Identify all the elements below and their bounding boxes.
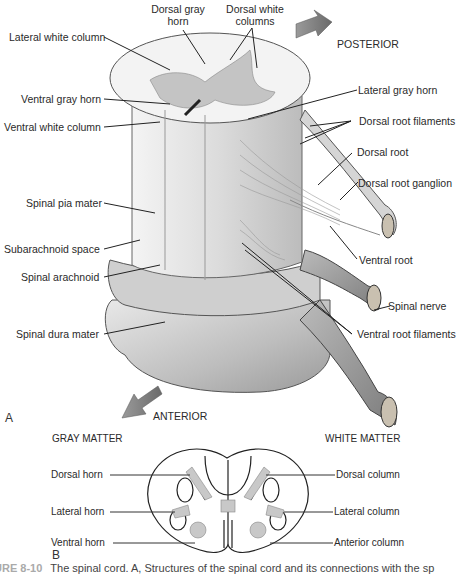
label-dorsal-horn: Dorsal horn xyxy=(51,469,103,481)
label-anterior-column: Anterior column xyxy=(334,537,404,549)
label-dorsal-gray-horn: Dorsal gray horn xyxy=(148,3,208,27)
figure-caption: URE 8-10The spinal cord. A, Structures o… xyxy=(0,562,434,574)
caption-text: The spinal cord. A, Structures of the sp… xyxy=(50,562,434,574)
label-lateral-white-column: Lateral white column xyxy=(9,31,105,43)
label-dorsal-root-ganglion: Dorsal root ganglion xyxy=(358,177,452,189)
label-posterior-direction: POSTERIOR xyxy=(337,38,399,50)
label-spinal-arachnoid: Spinal arachnoid xyxy=(21,271,99,283)
label-dorsal-column: Dorsal column xyxy=(336,469,400,481)
label-dorsal-gray-horn-line2: horn xyxy=(148,15,208,27)
label-dorsal-white-columns: Dorsal white columns xyxy=(222,3,288,27)
heading-gray-matter: GRAY MATTER xyxy=(52,433,123,445)
label-lateral-column: Lateral column xyxy=(334,506,400,518)
label-subarachnoid-space: Subarachnoid space xyxy=(4,243,100,255)
label-anterior-direction: ANTERIOR xyxy=(153,410,207,422)
label-spinal-nerve: Spinal nerve xyxy=(388,300,446,312)
panel-a-letter: A xyxy=(5,411,13,425)
heading-white-matter: WHITE MATTER xyxy=(325,433,400,445)
label-ventral-gray-horn: Ventral gray horn xyxy=(21,93,101,105)
label-ventral-white-column: Ventral white column xyxy=(4,121,101,133)
figure-number: URE 8-10 xyxy=(0,562,42,574)
label-spinal-pia-mater: Spinal pia mater xyxy=(26,197,102,209)
label-dorsal-white-columns-line1: Dorsal white xyxy=(222,3,288,15)
label-dorsal-gray-horn-line1: Dorsal gray xyxy=(148,3,208,15)
label-spinal-dura-mater: Spinal dura mater xyxy=(16,328,99,340)
label-dorsal-root-filaments: Dorsal root filaments xyxy=(359,115,455,127)
label-dorsal-white-columns-line2: columns xyxy=(222,15,288,27)
panel-b-letter: B xyxy=(52,548,60,562)
label-ventral-root: Ventral root xyxy=(359,254,413,266)
label-ventral-root-filaments: Ventral root filaments xyxy=(357,328,456,340)
label-lateral-horn: Lateral horn xyxy=(51,506,104,518)
label-lateral-gray-horn: Lateral gray horn xyxy=(358,84,437,96)
label-dorsal-root: Dorsal root xyxy=(357,146,408,158)
